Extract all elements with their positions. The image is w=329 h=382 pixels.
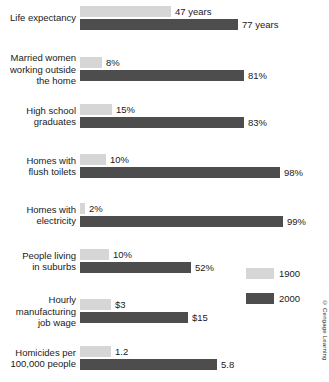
bar-line-2000: 81% — [80, 70, 329, 81]
row-bars: 8% 81% — [80, 57, 329, 81]
chart-legend: 1900 2000 — [246, 268, 322, 318]
chart-row: Married women working outside the home 8… — [0, 52, 329, 87]
row-bars: 10% 98% — [80, 154, 329, 178]
bar-value-1900: 10% — [113, 249, 132, 260]
row-label: People living in suburbs — [0, 250, 80, 273]
row-label: Married women working outside the home — [0, 52, 80, 87]
bar-1900 — [80, 6, 171, 17]
row-label: Life expectancy — [0, 12, 80, 24]
bar-1900 — [80, 57, 102, 68]
legend-label-1900: 1900 — [279, 268, 300, 279]
bar-1900 — [80, 154, 106, 165]
bar-1900 — [80, 299, 111, 310]
row-label: Homes with flush toilets — [0, 155, 80, 178]
bar-value-2000: $15 — [192, 312, 208, 323]
row-label: Homes with electricity — [0, 204, 80, 227]
bar-value-1900: $3 — [115, 299, 126, 310]
bar-2000 — [80, 359, 217, 370]
bar-1900 — [80, 104, 112, 115]
legend-item-2000: 2000 — [246, 293, 322, 304]
bar-value-1900: 15% — [116, 104, 135, 115]
legend-label-2000: 2000 — [279, 293, 300, 304]
chart-row: Homes with flush toilets 10% 98% — [0, 154, 329, 178]
bar-value-2000: 52% — [195, 262, 214, 273]
bar-value-1900: 8% — [106, 57, 120, 68]
bar-value-1900: 47 years — [175, 6, 211, 17]
row-bars: 2% 99% — [80, 203, 329, 227]
bar-2000 — [80, 117, 244, 128]
legend-swatch-1900 — [246, 268, 274, 279]
copyright-credit: © Cengage Learning — [322, 300, 328, 361]
legend-swatch-2000 — [246, 293, 274, 304]
bar-value-2000: 98% — [284, 167, 303, 178]
bar-value-2000: 77 years — [242, 19, 278, 30]
bar-value-2000: 81% — [248, 70, 267, 81]
bar-line-1900: 10% — [80, 154, 329, 165]
bar-line-2000: 98% — [80, 167, 329, 178]
bar-line-1900: 1.2 — [80, 346, 329, 357]
bar-line-1900: 10% — [80, 249, 329, 260]
comparison-bar-chart: Life expectancy 47 years 77 years Marrie… — [0, 0, 329, 382]
bar-1900 — [80, 346, 111, 357]
bar-line-1900: 8% — [80, 57, 329, 68]
bar-line-2000: 77 years — [80, 19, 329, 30]
bar-value-1900: 10% — [110, 154, 129, 165]
bar-value-1900: 2% — [89, 203, 103, 214]
bar-2000 — [80, 312, 188, 323]
bar-2000 — [80, 216, 283, 227]
bar-value-2000: 5.8 — [221, 359, 234, 370]
bar-line-1900: 15% — [80, 104, 329, 115]
bar-line-2000: 99% — [80, 216, 329, 227]
legend-item-1900: 1900 — [246, 268, 322, 279]
bar-2000 — [80, 262, 191, 273]
row-bars: 1.2 5.8 — [80, 346, 329, 370]
chart-row: Homes with electricity 2% 99% — [0, 203, 329, 227]
row-label: Homicides per 100,000 people — [0, 347, 80, 370]
bar-2000 — [80, 70, 244, 81]
bar-2000 — [80, 19, 238, 30]
chart-row: Homicides per 100,000 people 1.2 5.8 — [0, 346, 329, 370]
row-bars: 15% 83% — [80, 104, 329, 128]
bar-line-1900: 47 years — [80, 6, 329, 17]
chart-row: High school graduates 15% 83% — [0, 104, 329, 128]
row-label: Hourly manufacturing job wage — [0, 294, 80, 329]
row-bars: 47 years 77 years — [80, 6, 329, 30]
bar-value-2000: 99% — [287, 216, 306, 227]
row-label: High school graduates — [0, 105, 80, 128]
bar-1900 — [80, 203, 85, 214]
chart-row: Life expectancy 47 years 77 years — [0, 6, 329, 30]
bar-line-1900: 2% — [80, 203, 329, 214]
bar-line-2000: 5.8 — [80, 359, 329, 370]
bar-value-2000: 83% — [248, 117, 267, 128]
bar-1900 — [80, 249, 109, 260]
bar-value-1900: 1.2 — [115, 346, 128, 357]
bar-line-2000: 83% — [80, 117, 329, 128]
bar-2000 — [80, 167, 280, 178]
